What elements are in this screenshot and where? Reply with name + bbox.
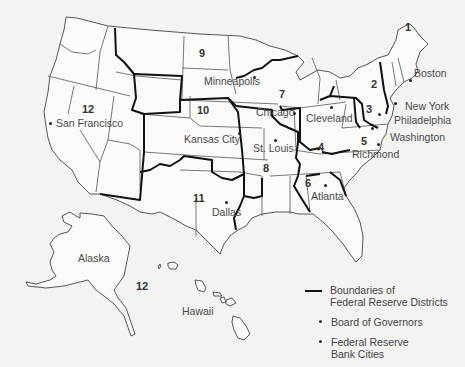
city-label-st-louis: St. Louis <box>253 143 294 154</box>
alaska-outline <box>26 212 135 336</box>
city-label-dallas: Dallas <box>212 207 241 218</box>
legend-boundaries-line1: Boundaries of <box>330 284 448 296</box>
region-label-hawaii: Hawaii <box>182 306 214 317</box>
map-legend: Boundaries of Federal Reserve Districts … <box>305 284 448 366</box>
region-label-alaska: Alaska <box>78 253 110 264</box>
city-label-boston: Boston <box>414 68 447 79</box>
bank-city-dot-icon <box>319 340 322 343</box>
city-label-new-york: New York <box>405 101 449 112</box>
district-number-9: 9 <box>199 48 205 59</box>
city-dot-san-francisco <box>49 122 52 125</box>
city-label-san-francisco: San Francisco <box>56 118 123 129</box>
city-dot-dallas <box>225 201 228 204</box>
legend-bank-cities-line2: Bank Cities <box>331 348 448 360</box>
district-number-2: 2 <box>371 79 377 90</box>
city-label-richmond: Richmond <box>352 149 399 160</box>
district-number-10: 10 <box>197 105 209 116</box>
board-dot-washington <box>371 127 374 130</box>
city-label-atlanta: Atlanta <box>311 191 344 202</box>
legend-boundaries: Boundaries of Federal Reserve Districts <box>305 284 448 308</box>
federal-reserve-map: 1 2 3 4 5 6 7 8 9 10 11 12 12 Boston New… <box>0 0 465 367</box>
district-number-12: 12 <box>82 104 94 115</box>
city-dot-atlanta <box>324 184 327 187</box>
city-dot-cleveland <box>330 106 333 109</box>
legend-boundaries-line2: Federal Reserve Districts <box>330 296 448 308</box>
city-label-minneapolis: Minneapolis <box>204 76 260 87</box>
city-dot-new-york <box>394 102 397 105</box>
district-number-5: 5 <box>361 136 367 147</box>
hawaii-islands <box>158 262 250 340</box>
city-dot-philadelphia <box>378 113 381 116</box>
district-number-8: 8 <box>263 163 269 174</box>
district-number-11: 11 <box>193 193 205 204</box>
legend-bank-cities-line1: Federal Reserve <box>331 336 448 348</box>
city-label-cleveland: Cleveland <box>306 113 353 124</box>
district-number-12-pacific: 12 <box>136 281 148 292</box>
city-label-chicago: Chicago <box>256 107 295 118</box>
board-dot-icon <box>319 320 322 323</box>
legend-board: Board of Governors <box>305 316 448 328</box>
city-label-washington: Washington <box>390 132 445 143</box>
city-label-kansas-city: Kansas City <box>184 134 240 145</box>
city-dot-richmond <box>377 143 380 146</box>
city-label-philadelphia: Philadelphia <box>394 115 451 126</box>
legend-board-label: Board of Governors <box>331 316 448 328</box>
legend-bank-cities: Federal Reserve Bank Cities <box>305 336 448 360</box>
district-number-6: 6 <box>305 178 311 189</box>
district-number-4: 4 <box>318 142 324 153</box>
district-number-3: 3 <box>366 104 372 115</box>
boundary-line-icon <box>305 290 322 292</box>
district-number-1: 1 <box>405 22 411 33</box>
city-dot-boston <box>409 79 412 82</box>
district-number-7: 7 <box>279 89 285 100</box>
